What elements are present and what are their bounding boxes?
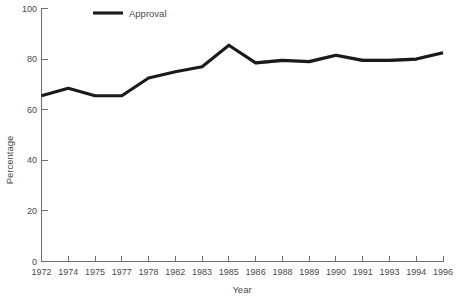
- y-tick-label: 100: [22, 4, 37, 14]
- x-tick-label: 1986: [246, 267, 266, 277]
- chart-svg: 100 80 60 40 20 0 Percentage 19721974197…: [0, 0, 456, 299]
- x-tick-label: 1982: [165, 267, 185, 277]
- legend-label-approval: Approval: [129, 8, 167, 19]
- x-tick-label: 1994: [406, 267, 426, 277]
- x-tick-label: 1993: [379, 267, 399, 277]
- x-tick-label: 1985: [219, 267, 239, 277]
- y-tick-label: 80: [27, 54, 37, 64]
- x-tick-label: 1988: [272, 267, 292, 277]
- y-tick-label: 20: [27, 206, 37, 216]
- x-tick-label: 1990: [326, 267, 346, 277]
- x-tick-label: 1991: [353, 267, 373, 277]
- x-tick-label: 1989: [299, 267, 319, 277]
- x-tick-label: 1974: [58, 267, 78, 277]
- x-tick-label: 1972: [31, 267, 51, 277]
- y-tick-label: 40: [27, 155, 37, 165]
- x-tick-label: 1975: [85, 267, 105, 277]
- approval-line-chart: 100 80 60 40 20 0 Percentage 19721974197…: [0, 0, 456, 299]
- x-axis-title: Year: [232, 284, 251, 295]
- x-tick-label: 1977: [112, 267, 132, 277]
- x-tick-label: 1978: [139, 267, 159, 277]
- y-tick-label: 60: [27, 105, 37, 115]
- x-tick-label: 1996: [433, 267, 453, 277]
- y-axis-title: Percentage: [4, 136, 15, 185]
- x-tick-label: 1983: [192, 267, 212, 277]
- y-tick-label: 0: [32, 257, 37, 267]
